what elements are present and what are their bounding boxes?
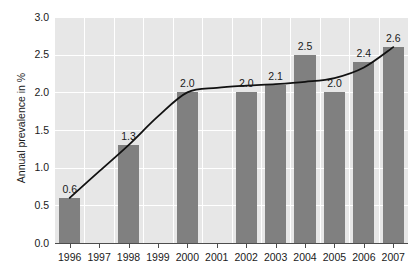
bar-value-label: 2.1 bbox=[261, 71, 290, 82]
y-tick-label: 0.5 bbox=[19, 200, 49, 211]
y-tick-label: 1.0 bbox=[19, 162, 49, 173]
bar-value-label: 2.0 bbox=[173, 78, 202, 89]
x-tick bbox=[187, 244, 188, 248]
bar-chart: Annual prevalence in % 0.00.51.01.52.02.… bbox=[0, 0, 418, 272]
x-tick bbox=[158, 244, 159, 248]
bar-value-label: 2.0 bbox=[232, 78, 261, 89]
bar-value-label: 2.5 bbox=[290, 41, 319, 52]
x-tick bbox=[276, 244, 277, 248]
y-tick-label: 0.0 bbox=[19, 238, 49, 249]
x-tick bbox=[305, 244, 306, 248]
y-axis-tick-labels: 0.00.51.01.52.02.53.0 bbox=[18, 0, 49, 272]
bar-value-label: 2.0 bbox=[320, 78, 349, 89]
bar-value-label: 2.4 bbox=[349, 48, 378, 59]
x-tick bbox=[129, 244, 130, 248]
x-tick-label: 2007 bbox=[373, 251, 413, 263]
bar-value-label: 2.6 bbox=[379, 33, 408, 44]
y-tick-label: 2.0 bbox=[19, 87, 49, 98]
y-tick-label: 3.0 bbox=[19, 12, 49, 23]
plot-area: 0.61.32.02.02.12.52.02.42.6 bbox=[55, 17, 408, 243]
x-tick bbox=[364, 244, 365, 248]
x-tick bbox=[217, 244, 218, 248]
y-tick-label: 2.5 bbox=[19, 49, 49, 60]
y-tick-label: 1.5 bbox=[19, 125, 49, 136]
bar-value-label: 1.3 bbox=[114, 131, 143, 142]
x-tick bbox=[393, 244, 394, 248]
x-tick bbox=[99, 244, 100, 248]
x-axis-line bbox=[55, 243, 408, 244]
bar-value-label: 0.6 bbox=[55, 184, 84, 195]
x-tick bbox=[70, 244, 71, 248]
trend-line-path bbox=[70, 47, 394, 198]
x-tick bbox=[246, 244, 247, 248]
x-tick bbox=[334, 244, 335, 248]
